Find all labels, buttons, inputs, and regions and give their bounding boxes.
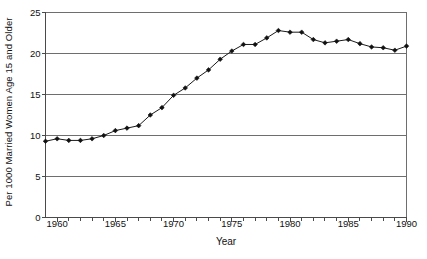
y-tick-label: 25 (17, 8, 41, 18)
x-tick-label: 1965 (93, 219, 137, 229)
series-line (46, 31, 407, 142)
data-point-marker (125, 126, 130, 131)
data-point-marker (346, 37, 351, 42)
data-point-marker (113, 128, 118, 133)
y-tick-label: 20 (17, 49, 41, 59)
data-point-marker (381, 45, 386, 50)
chart-figure: Per 1000 Married Women Age 15 and Older … (0, 0, 427, 259)
data-point-marker (90, 136, 95, 141)
data-point-marker (101, 133, 106, 138)
x-tick-label: 1975 (210, 219, 254, 229)
data-point-marker (358, 41, 363, 46)
data-point-marker (334, 39, 339, 44)
x-tick-label: 1985 (326, 219, 370, 229)
y-tick-label: 5 (17, 172, 41, 182)
y-tick-label: 15 (17, 90, 41, 100)
data-point-marker (241, 42, 246, 47)
data-point-marker (66, 138, 71, 143)
x-tick-label: 1960 (35, 219, 79, 229)
data-point-marker (78, 138, 83, 143)
data-point-marker (404, 44, 409, 49)
data-point-marker (323, 41, 328, 46)
data-point-marker (288, 30, 293, 35)
x-tick-label: 1990 (385, 219, 427, 229)
data-point-marker (55, 136, 60, 141)
data-point-marker (369, 45, 374, 50)
x-tick-label: 1970 (152, 219, 196, 229)
data-point-marker (393, 48, 398, 53)
data-point-marker (253, 42, 258, 47)
data-point-marker (43, 139, 48, 144)
y-tick-label: 10 (17, 131, 41, 141)
x-tick-label: 1980 (268, 219, 312, 229)
